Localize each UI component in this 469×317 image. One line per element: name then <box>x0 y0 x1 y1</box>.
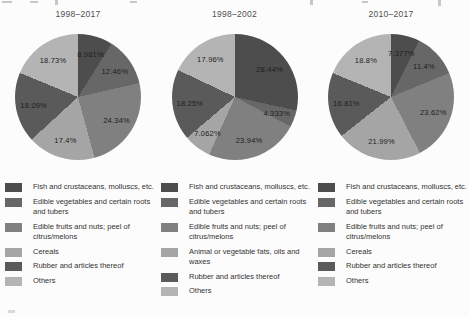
chart-title: 2010–2017 <box>313 9 469 19</box>
legend-label: Rubber and articles thereof <box>189 272 311 283</box>
legend-item: Others <box>5 276 154 287</box>
pie-slice-label: 17.4% <box>54 136 76 145</box>
legend-label: Animal or vegetable fats, oils and waxes <box>189 247 311 268</box>
legend-label: Rubber and articles thereof <box>33 261 154 272</box>
legend-item: Rubber and articles thereof <box>161 272 311 283</box>
legend-label: Fish and crustaceans, molluscs, etc. <box>33 182 154 193</box>
legend: Fish and crustaceans, molluscs, etc.Edib… <box>3 182 156 286</box>
legend-item: Edible fruits and nuts; peel of citrus/m… <box>5 222 154 243</box>
pie-slice-label: 8.981% <box>77 49 104 58</box>
pie-slice-label: 21.99% <box>368 136 395 145</box>
pie-slice-label: 18.73% <box>40 55 67 64</box>
legend-item: Edible vegetables and certain roots and … <box>318 197 467 218</box>
legend-swatch <box>161 248 178 257</box>
legend-swatch <box>161 287 178 296</box>
legend-swatch <box>161 198 178 207</box>
legend-label: Cereals <box>346 247 467 258</box>
pie-slice-label: 11.4% <box>413 62 435 71</box>
legend-swatch <box>5 183 22 192</box>
chart-column-1998-2002: 1998–2002 28.44%4.333%23.94%7.062%18.25%… <box>156 0 313 317</box>
legend-swatch <box>318 277 335 286</box>
pie-slice-label: 7.062% <box>194 128 221 137</box>
legend-label: Edible fruits and nuts; peel of citrus/m… <box>189 222 311 243</box>
pie-slice-label: 28.44% <box>256 64 283 73</box>
legend-label: Edible fruits and nuts; peel of citrus/m… <box>33 222 154 243</box>
legend-swatch <box>5 198 22 207</box>
legend-item: Edible vegetables and certain roots and … <box>161 197 311 218</box>
legend-item: Edible fruits and nuts; peel of citrus/m… <box>161 222 311 243</box>
pie-slice-label: 18.8% <box>355 55 377 64</box>
legend-item: Edible fruits and nuts; peel of citrus/m… <box>318 222 467 243</box>
pie-slice-label: 18.25% <box>177 98 204 107</box>
legend-swatch <box>5 262 22 271</box>
legend-label: Edible vegetables and certain roots and … <box>33 197 154 218</box>
legend-item: Edible vegetables and certain roots and … <box>5 197 154 218</box>
pie-slice-label: 7.377% <box>388 49 415 58</box>
chart-title: 1998–2002 <box>156 9 313 19</box>
legend-label: Fish and crustaceans, molluscs, etc. <box>346 182 467 193</box>
legend-label: Others <box>33 276 154 287</box>
legend-label: Rubber and articles thereof <box>346 261 467 272</box>
chart-column-1998-2017: 1998–2017 8.981%12.46%24.34%17.4%18.09%1… <box>0 0 156 317</box>
chart-title: 1998–2017 <box>0 9 156 19</box>
legend-swatch <box>318 262 335 271</box>
pie-slice-label: 24.34% <box>103 116 130 125</box>
legend-item: Others <box>161 286 311 297</box>
legend-label: Others <box>189 286 311 297</box>
legend-label: Edible fruits and nuts; peel of citrus/m… <box>346 222 467 243</box>
legend-swatch <box>5 223 22 232</box>
legend-swatch <box>161 273 178 282</box>
legend-label: Edible vegetables and certain roots and … <box>346 197 467 218</box>
legend-item: Rubber and articles thereof <box>5 261 154 272</box>
legend-swatch <box>318 248 335 257</box>
legend-label: Others <box>346 276 467 287</box>
legend-item: Rubber and articles thereof <box>318 261 467 272</box>
legend-swatch <box>5 248 22 257</box>
chart-grid: 1998–2017 8.981%12.46%24.34%17.4%18.09%1… <box>0 0 469 317</box>
legend-swatch <box>318 198 335 207</box>
pie-slice-label: 17.96% <box>197 54 224 63</box>
legend-item: Fish and crustaceans, molluscs, etc. <box>161 182 311 193</box>
legend-item: Fish and crustaceans, molluscs, etc. <box>318 182 467 193</box>
legend-swatch <box>318 183 335 192</box>
legend-swatch <box>161 183 178 192</box>
legend-item: Cereals <box>318 247 467 258</box>
pie-chart: 28.44%4.333%23.94%7.062%18.25%17.96% <box>172 34 298 160</box>
pie-slice-label: 23.94% <box>236 135 263 144</box>
pie-chart: 8.981%12.46%24.34%17.4%18.09%18.73% <box>15 34 141 160</box>
legend-label: Cereals <box>33 247 154 258</box>
scanned-figure: 1998–2017 8.981%12.46%24.34%17.4%18.09%1… <box>0 0 469 317</box>
legend-item: Others <box>318 276 467 287</box>
pie-chart: 7.377%11.4%23.62%21.99%16.81%18.8% <box>328 34 454 160</box>
pie-slice-label: 23.62% <box>420 108 447 117</box>
legend: Fish and crustaceans, molluscs, etc.Edib… <box>159 182 313 297</box>
legend-item: Fish and crustaceans, molluscs, etc. <box>5 182 154 193</box>
legend-swatch <box>161 223 178 232</box>
legend-label: Fish and crustaceans, molluscs, etc. <box>189 182 311 193</box>
legend-label: Edible vegetables and certain roots and … <box>189 197 311 218</box>
pie-slice-label: 16.81% <box>333 99 360 108</box>
pie-slice-label: 18.09% <box>20 100 47 109</box>
legend-swatch <box>5 277 22 286</box>
chart-column-2010-2017: 2010–2017 7.377%11.4%23.62%21.99%16.81%1… <box>313 0 469 317</box>
legend-item: Animal or vegetable fats, oils and waxes <box>161 247 311 268</box>
pie-slice-label: 4.333% <box>263 108 290 117</box>
legend-item: Cereals <box>5 247 154 258</box>
legend-swatch <box>318 223 335 232</box>
pie-slice-label: 12.46% <box>101 67 128 76</box>
legend: Fish and crustaceans, molluscs, etc.Edib… <box>316 182 469 286</box>
